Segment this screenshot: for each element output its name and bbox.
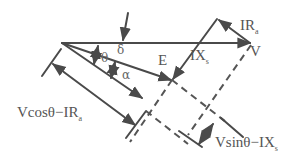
bracket-left-start bbox=[42, 49, 61, 76]
label-v: V bbox=[250, 43, 261, 59]
label-ixs: IXs bbox=[190, 47, 209, 66]
delta-arrow-icon bbox=[123, 13, 128, 40]
label-vcos: Vcosθ−IRa bbox=[17, 104, 82, 123]
alpha-arc-icon bbox=[111, 62, 115, 78]
dash-from-e bbox=[130, 80, 172, 142]
label-ira: IRa bbox=[240, 17, 259, 36]
label-theta: θ bbox=[101, 51, 108, 65]
label-e: E bbox=[158, 52, 167, 68]
vsin-dimension-arrow bbox=[199, 124, 213, 144]
dash-e-perp bbox=[172, 80, 226, 122]
dash-bottom-perp bbox=[146, 111, 188, 144]
label-vsin: Vsinθ−IXs bbox=[215, 134, 278, 153]
phasor-diagram: IRa V E IXs δ θ α Vcosθ−IRa Vsinθ−IXs bbox=[0, 0, 300, 165]
label-alpha: α bbox=[122, 68, 130, 82]
label-delta: δ bbox=[117, 43, 124, 57]
